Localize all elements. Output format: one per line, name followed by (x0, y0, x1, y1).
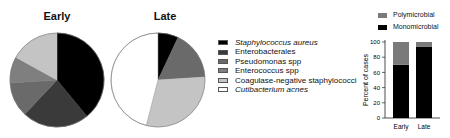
svg-text:0: 0 (377, 115, 381, 121)
svg-text:20: 20 (373, 100, 380, 106)
legend-item-cutibacterium-acnes: Cutibacterium acnes (218, 85, 356, 94)
x-tick-early: Early (394, 123, 410, 131)
legend-label: Cutibacterium acnes (235, 85, 308, 94)
legend-label: Pseudomonas spp (235, 57, 301, 66)
legend-swatch (378, 13, 387, 18)
early-pie-chart (10, 33, 104, 127)
legend-label: Enterococcus spp (235, 66, 299, 75)
bar-segment-monomicrobial-late (416, 47, 432, 118)
svg-text:40: 40 (373, 85, 380, 91)
bar-legend-item-polymicrobial: Polymicrobial (378, 9, 439, 21)
bars (393, 42, 432, 118)
legend-swatch (218, 50, 228, 55)
bar-segment-polymicrobial-late (416, 42, 432, 47)
y-axis-label: Percent of cases (362, 53, 369, 106)
legend-swatch (218, 40, 228, 45)
stacked-bar-chart: Percent of cases 020406080100 Early Late (360, 30, 450, 138)
legend-label: Enterobacterales (235, 47, 295, 56)
species-legend: Staphylococcus aureus Enterobacterales P… (218, 38, 356, 94)
legend-item-staphylococcus-aureus: Staphylococcus aureus (218, 38, 356, 47)
pie-charts (0, 0, 215, 138)
legend-swatch (218, 59, 228, 64)
legend-item-coagulase-negative-staphylococci: Coagulase-negative staphylococci (218, 76, 356, 85)
legend-label: Staphylococcus aureus (235, 38, 318, 47)
bar-segment-polymicrobial-early (393, 42, 409, 65)
svg-text:80: 80 (373, 54, 380, 60)
svg-text:100: 100 (370, 39, 381, 45)
legend-swatch (218, 68, 228, 73)
legend-label: Coagulase-negative staphylococci (235, 76, 356, 85)
legend-swatch (218, 87, 228, 92)
legend-swatch (218, 78, 228, 83)
bar-segment-monomicrobial-early (393, 65, 409, 118)
legend-item-enterobacterales: Enterobacterales (218, 47, 356, 56)
legend-swatch (378, 25, 387, 30)
legend-item-pseudomonas: Pseudomonas spp (218, 57, 356, 66)
legend-label: Polymicrobial (393, 9, 435, 21)
late-pie-chart (111, 33, 205, 127)
legend-item-enterococcus: Enterococcus spp (218, 66, 356, 75)
svg-text:60: 60 (373, 70, 380, 76)
y-ticks: 020406080100 (370, 39, 385, 121)
x-tick-late: Late (418, 123, 431, 130)
